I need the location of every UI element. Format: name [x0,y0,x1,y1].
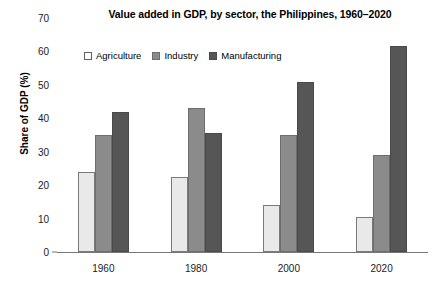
x-axis-tick-label: 1980 [185,263,207,274]
y-axis-tick-label: 70 [38,13,49,24]
bar-agriculture-2000 [263,205,280,252]
y-axis-tick-label: 60 [38,46,49,57]
bar-industry-1960 [95,135,112,252]
y-axis-tick-label: 0 [43,247,49,258]
y-axis-tick-label: 20 [38,180,49,191]
bar-chart: Value added in GDP, by sector, the Phili… [0,0,441,284]
y-axis-tick-label: 50 [38,79,49,90]
bar-manufacturing-2020 [390,46,407,252]
y-axis-tick-label: 30 [38,146,49,157]
bar-manufacturing-1960 [112,112,129,252]
x-axis-tick-label: 2020 [371,263,393,274]
bar-group: 2020 [356,18,407,252]
bar-manufacturing-2000 [297,82,314,252]
bar-group: 2000 [263,18,314,252]
x-axis-tick-label: 1960 [92,263,114,274]
y-axis-title: Share of GDP (%) [19,44,30,184]
bar-industry-2000 [280,135,297,252]
bar-groups: 1960198020002020 [57,18,428,252]
bar-agriculture-2020 [356,217,373,252]
bar-manufacturing-1980 [205,133,222,252]
bar-industry-2020 [373,155,390,252]
bar-agriculture-1960 [78,172,95,252]
plot-area: 010203040506070 1960198020002020 [57,18,428,252]
x-axis-tick-label: 2000 [278,263,300,274]
x-axis-line [57,252,428,253]
bar-group: 1960 [78,18,129,252]
y-axis-tick-label: 10 [38,213,49,224]
y-axis-tick-label: 40 [38,113,49,124]
bar-industry-1980 [188,108,205,252]
bar-group: 1980 [171,18,222,252]
bar-agriculture-1980 [171,177,188,252]
